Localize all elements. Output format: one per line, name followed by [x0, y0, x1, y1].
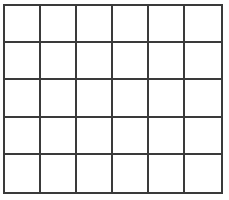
grid-cell: [185, 118, 221, 155]
grid-cell: [5, 43, 41, 80]
grid-cell: [41, 80, 77, 117]
grid-cell: [185, 155, 221, 192]
empty-grid: [3, 4, 223, 194]
grid-cell: [5, 118, 41, 155]
grid-cell: [41, 118, 77, 155]
grid-cell: [185, 43, 221, 80]
grid-cell: [149, 80, 185, 117]
grid-cell: [149, 6, 185, 43]
grid-cell: [149, 43, 185, 80]
grid-cell: [185, 6, 221, 43]
grid-cell: [41, 155, 77, 192]
grid-cell: [77, 6, 113, 43]
grid-cell: [5, 6, 41, 43]
grid-cell: [113, 43, 149, 80]
grid-cell: [5, 155, 41, 192]
grid-cell: [149, 118, 185, 155]
grid-cell: [113, 6, 149, 43]
grid-cell: [149, 155, 185, 192]
grid-cell: [113, 118, 149, 155]
grid-cell: [77, 80, 113, 117]
grid-cell: [77, 43, 113, 80]
grid-cell: [5, 80, 41, 117]
grid-canvas: [0, 0, 229, 200]
grid-cell: [185, 80, 221, 117]
grid-cell: [113, 80, 149, 117]
grid-cell: [77, 118, 113, 155]
grid-cell: [41, 6, 77, 43]
grid-cell: [77, 155, 113, 192]
grid-cell: [41, 43, 77, 80]
grid-cell: [113, 155, 149, 192]
